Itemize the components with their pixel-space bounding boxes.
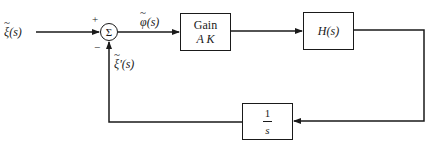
sigma-symbol: Σ — [106, 26, 112, 38]
summing-junction: Σ — [100, 23, 118, 41]
plus-sign: + — [92, 14, 98, 25]
integrator-fraction: 1 s — [263, 107, 272, 136]
integrator-numerator: 1 — [265, 107, 271, 119]
error-signal-text: φ(s) — [140, 16, 159, 28]
feedback-signal-text: ξ'(s) — [114, 58, 134, 70]
error-signal-label: φ(s) — [140, 16, 159, 28]
integrator-denominator: s — [265, 124, 269, 136]
minus-sign: − — [94, 42, 100, 53]
feedback-signal-label: ξ'(s) — [114, 58, 134, 70]
plant-block: H(s) — [303, 12, 354, 50]
integrator-block: 1 s — [242, 103, 293, 140]
gain-block-title: Gain — [194, 18, 217, 32]
input-signal-label: ξ(s) — [4, 26, 22, 38]
plant-block-label: H(s) — [318, 24, 339, 38]
input-signal-text: ξ(s) — [4, 26, 22, 38]
feedback-wire — [109, 42, 242, 122]
gain-block: Gain A K — [180, 13, 231, 51]
fraction-bar — [263, 121, 272, 122]
gain-block-value: A K — [196, 32, 214, 46]
